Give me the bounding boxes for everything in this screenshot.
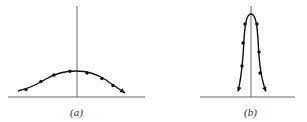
panel-a: (a) (8, 6, 145, 119)
panel-a-marker (111, 84, 114, 87)
panel-b-marker (255, 22, 258, 25)
panel-a-markers (24, 70, 126, 95)
panel-a-marker (52, 73, 55, 76)
panel-b-label: (b) (244, 106, 257, 119)
panel-b-marker (257, 50, 260, 53)
panel-a-marker (24, 88, 27, 91)
panel-a-marker (39, 80, 42, 83)
panel-a-label: (a) (70, 106, 83, 119)
panel-a-curve (18, 71, 125, 93)
panel-b-arrowhead-right-icon (262, 87, 268, 93)
panel-b-arrowhead-left-icon (236, 87, 242, 93)
panel-a-marker (85, 71, 88, 74)
panel-b-marker (241, 41, 244, 44)
panel-a-marker (68, 70, 71, 73)
panel-b-marker (243, 22, 246, 25)
figure: (a) (b) (0, 0, 307, 122)
panel-b-marker (258, 71, 261, 74)
panel-b: (b) (200, 6, 295, 119)
panel-b-marker (240, 64, 243, 67)
panel-a-marker (100, 77, 103, 80)
